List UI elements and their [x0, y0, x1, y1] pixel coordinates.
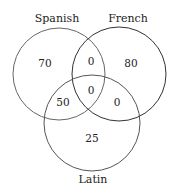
region-spanish-latin: 50: [56, 96, 69, 108]
venn-svg: Spanish French Latin 70 80 0 0 50 0 25: [0, 0, 176, 188]
region-all-three: 0: [88, 84, 95, 96]
latin-label: Latin: [79, 173, 108, 186]
region-french-only: 80: [124, 57, 137, 69]
region-spanish-only: 70: [38, 57, 51, 69]
spanish-label: Spanish: [35, 12, 79, 25]
region-spanish-french: 0: [88, 55, 95, 67]
venn-diagram: Spanish French Latin 70 80 0 0 50 0 25: [0, 0, 176, 188]
french-label: French: [108, 12, 148, 25]
region-latin-only: 25: [85, 132, 98, 144]
region-french-latin: 0: [114, 96, 121, 108]
